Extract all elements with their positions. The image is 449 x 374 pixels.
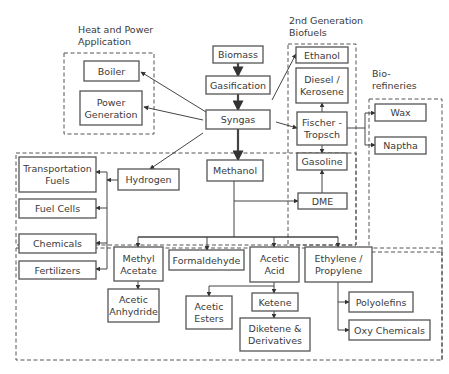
node-label: Naptha [383, 140, 418, 151]
node-label: Ethylene / [315, 253, 364, 264]
arrow-fischer-tropsch-to-naptha [365, 128, 375, 145]
node-power-generation[interactable]: PowerGeneration [80, 91, 142, 125]
node-acetic-acid[interactable]: AceticAcid [250, 247, 299, 282]
node-biomass[interactable]: Biomass [213, 46, 263, 63]
node-label: Acetate [120, 265, 157, 276]
group-label: 2nd Generation [289, 15, 363, 26]
node-wax[interactable]: Wax [375, 104, 426, 121]
arrow-syngas-to-fischer-tropsch [276, 122, 297, 128]
node-label: Oxy Chemicals [354, 325, 425, 336]
group-label: refineries [372, 80, 417, 91]
node-label: Propylene [315, 265, 362, 276]
node-label: Polyolefins [356, 297, 407, 308]
node-label: Acetic [195, 301, 224, 312]
group-label: Heat and Power [78, 24, 153, 35]
node-label: Formaldehyde [173, 255, 241, 266]
node-label: Fuel Cells [35, 203, 80, 214]
node-gasification[interactable]: Gasification [206, 76, 270, 94]
node-label: Anhydride [109, 306, 158, 317]
node-acetic-anhydride[interactable]: AceticAnhydride [108, 289, 159, 322]
arrow-ethylene-propylene-to-oxy-chemicals [338, 302, 349, 330]
node-methanol[interactable]: Methanol [207, 160, 263, 181]
node-ethanol[interactable]: Ethanol [296, 47, 348, 63]
node-label: Chemicals [33, 238, 82, 249]
node-ethylene-propylene[interactable]: Ethylene /Propylene [305, 247, 372, 282]
node-label: Wax [390, 107, 411, 118]
node-label: Methanol [213, 165, 257, 176]
node-ketene[interactable]: Ketene [252, 293, 298, 311]
arrow-ethylene-propylene-to-polyolefins [338, 282, 349, 302]
group-label: Bio- [372, 68, 391, 79]
arrow-syngas-to-boiler [141, 72, 206, 112]
node-boiler[interactable]: Boiler [84, 61, 139, 81]
node-label: Biomass [218, 49, 258, 60]
node-label: Acetic [260, 253, 289, 264]
node-label: Ketene [258, 297, 291, 308]
node-label: Gasification [210, 80, 266, 91]
node-gasoline[interactable]: Gasoline [297, 153, 347, 170]
node-label: Esters [194, 313, 223, 324]
node-methyl-acetate[interactable]: MethylAcetate [114, 247, 163, 281]
node-polyolefins[interactable]: Polyolefins [349, 292, 413, 312]
node-fuel-cells[interactable]: Fuel Cells [19, 199, 96, 218]
node-label: Derivatives [248, 335, 302, 346]
node-transportation-fuels[interactable]: TransportationFuels [19, 157, 96, 192]
arrow-fischer-tropsch-to-wax [347, 113, 375, 128]
arrow-syngas-to-ethanol [272, 54, 296, 100]
node-dme[interactable]: DME [298, 193, 347, 209]
node-acetic-esters[interactable]: AceticEsters [186, 296, 232, 329]
node-label: Boiler [98, 66, 125, 77]
process-nodes: BiomassGasificationSyngasBoilerPowerGene… [19, 46, 430, 351]
node-label: Generation [85, 109, 138, 120]
node-fertilizers[interactable]: Fertilizers [19, 261, 96, 279]
node-label: Fertilizers [34, 265, 80, 276]
node-label: Hydrogen [125, 174, 171, 185]
node-syngas[interactable]: Syngas [206, 110, 270, 129]
node-oxy-chemicals[interactable]: Oxy Chemicals [349, 320, 430, 340]
arrow-syngas-to-power-generation [144, 107, 203, 120]
arrow-syngas-to-hydrogen [150, 133, 203, 169]
node-diesel-kerosene[interactable]: Diesel /Kerosene [296, 68, 348, 103]
group-label: Application [78, 36, 131, 47]
node-label: Gasoline [301, 156, 342, 167]
node-chemicals[interactable]: Chemicals [19, 234, 96, 253]
node-label: Syngas [221, 114, 256, 125]
group-biorefineries: Bio-refineries [369, 68, 442, 252]
syngas-pathway-diagram: Heat and PowerApplication2nd GenerationB… [0, 0, 449, 374]
node-label: Fuels [45, 175, 69, 186]
node-hydrogen[interactable]: Hydrogen [118, 169, 179, 190]
node-naptha[interactable]: Naptha [375, 137, 426, 154]
node-label: Transportation [22, 163, 92, 174]
node-label: Methyl [122, 253, 154, 264]
node-label: Acid [264, 265, 284, 276]
node-label: Fischer - [302, 117, 342, 128]
node-label: Diesel / [304, 74, 340, 85]
node-label: Tropsch [303, 129, 340, 140]
node-label: Acetic [119, 294, 148, 305]
node-label: Diketene & [249, 323, 302, 334]
group-label: Biofuels [289, 27, 327, 38]
node-label: Ethanol [304, 50, 340, 61]
node-label: Kerosene [300, 86, 344, 97]
node-formaldehyde[interactable]: Formaldehyde [169, 250, 244, 270]
node-fischer-tropsch[interactable]: Fischer -Tropsch [297, 112, 347, 145]
node-diketene-derivatives[interactable]: Diketene &Derivatives [240, 318, 310, 351]
node-label: DME [312, 196, 334, 207]
node-label: Power [97, 97, 126, 108]
